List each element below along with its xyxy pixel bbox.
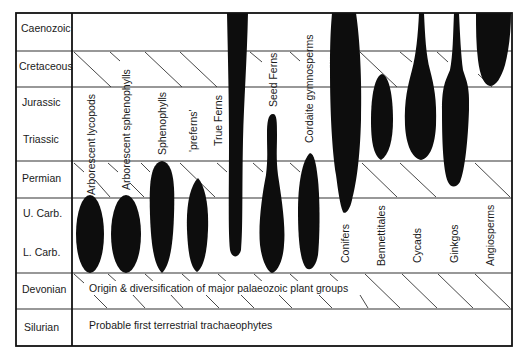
label-true-ferns: True Ferns xyxy=(212,95,224,146)
label-cordaite: Cordaite gymnosperms xyxy=(303,34,315,143)
spindle-angiosperms xyxy=(476,13,511,86)
hatch-permian xyxy=(74,163,510,197)
label-sphenophylls: Sphenophylls xyxy=(156,92,168,155)
label-conifers: Conifers xyxy=(339,224,351,263)
label-arborescent-lycopods: Arborescent lycopods xyxy=(85,94,97,195)
period-cretaceous: Cretaceous xyxy=(19,60,73,72)
label-preferns: 'preferns' xyxy=(187,109,199,152)
label-cycads: Cycads xyxy=(411,228,423,263)
spindle-preferns xyxy=(187,178,208,272)
period-u-carb: U. Carb. xyxy=(23,207,62,219)
range-spindles xyxy=(76,13,511,273)
period-permian: Permian xyxy=(22,172,61,184)
plant-range-diagram: Arborescent lycopods Arborescent sphenop… xyxy=(0,0,525,361)
spindle-conifers xyxy=(330,13,361,213)
period-silurian: Silurian xyxy=(24,321,59,333)
spindle-sphenophylls xyxy=(150,161,175,273)
spindle-cordaite xyxy=(298,153,320,269)
devonian-band-text: Origin & diversification of major palaeo… xyxy=(89,282,348,294)
group-labels: Arborescent lycopods Arborescent sphenop… xyxy=(85,34,496,266)
period-jurassic: Jurassic xyxy=(22,96,61,108)
label-arborescent-sphenophylls: Arborescent sphenophylls xyxy=(120,69,132,190)
label-seed-ferns: Seed Ferns xyxy=(267,53,279,107)
period-column: Caenozoic Cretaceous Jurassic Triassic P… xyxy=(16,22,73,333)
spindle-true-ferns xyxy=(227,13,248,256)
spindle-bennettitales xyxy=(371,74,393,160)
period-l-carb: L. Carb. xyxy=(23,246,60,258)
spindle-cycads xyxy=(405,13,436,160)
spindle-arborescent-sphenophylls xyxy=(111,195,141,273)
period-triassic: Triassic xyxy=(23,133,59,145)
label-bennettitales: Bennettitales xyxy=(375,205,387,266)
label-angiosperms: Angiosperms xyxy=(484,205,496,266)
spindle-seed-ferns xyxy=(259,114,284,273)
silurian-band-text: Probable first terrestrial trachaeophyte… xyxy=(89,319,272,331)
period-caenozoic: Caenozoic xyxy=(21,22,71,34)
period-devonian: Devonian xyxy=(22,283,67,295)
spindle-arborescent-lycopods xyxy=(76,195,104,273)
label-ginkgos: Ginkgos xyxy=(448,224,460,263)
